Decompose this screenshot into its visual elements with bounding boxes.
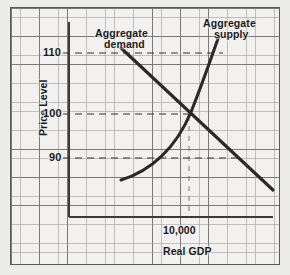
screenshot-canvas: Price Level 110 100 90 Aggregate demand … [0, 0, 290, 275]
x-axis-title: Real GDP [163, 246, 212, 258]
y-tick-90: 90 [49, 152, 61, 164]
aggregate-supply-label-line2: supply [214, 29, 248, 41]
x-tick-gdp-value: 10,000 [163, 225, 196, 237]
y-tick-110: 110 [43, 47, 61, 59]
aggregate-demand-label-line2: demand [104, 39, 145, 51]
graph-paper: Price Level 110 100 90 Aggregate demand … [10, 7, 280, 265]
y-tick-100: 100 [43, 108, 62, 120]
chart-plot-area: Price Level 110 100 90 Aggregate demand … [11, 8, 279, 264]
